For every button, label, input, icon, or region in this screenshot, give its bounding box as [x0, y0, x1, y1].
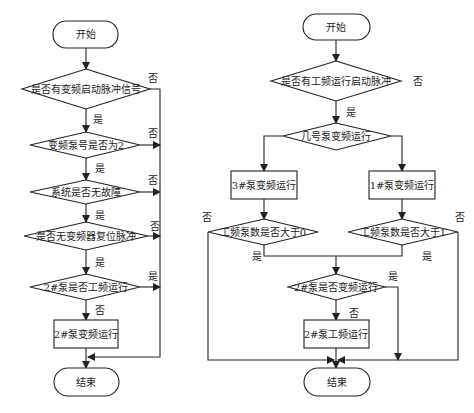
flowchart-canvas: 开始 是否有变频启动脉冲信号 否 是 变频泵号是否为2 否 是 系统是否无故障 … — [0, 0, 474, 413]
right-d3-yes-label: 是 — [388, 271, 398, 282]
left-d4-yes-label: 是 — [95, 257, 105, 268]
right-decision-1-text: 是否有工频运行启动脉冲 — [281, 75, 391, 87]
branch-right — [391, 136, 402, 171]
left-end-text: 结束 — [76, 376, 96, 388]
left-d1-yes-label: 是 — [93, 114, 103, 125]
left-d5-no-label: 否 — [95, 305, 105, 316]
right-d3-no-label: 否 — [349, 308, 359, 319]
right-d1-no-label: 否 — [413, 76, 423, 87]
right-decision-left-text: 工频泵数是否大于0 — [220, 226, 306, 238]
left-start-text: 开始 — [76, 28, 96, 40]
left-d4-no-label: 否 — [150, 221, 160, 232]
right-decision-right-text: 工频泵数是否大于1 — [360, 226, 446, 238]
yes-merge-line — [264, 245, 402, 256]
left-flowchart: 开始 是否有变频启动脉冲信号 否 是 变频泵号是否为2 否 是 系统是否无故障 … — [22, 21, 160, 396]
right-d-right-no-label: 否 — [455, 212, 465, 223]
right-end-text: 结束 — [327, 376, 347, 388]
left-decision-4-text: 是否无变频器复位脉冲 — [36, 230, 136, 242]
right-start-text: 开始 — [326, 21, 346, 33]
left-d3-yes-label: 是 — [95, 210, 105, 221]
right-decision-2-text: 几号泵变频运行 — [301, 130, 371, 142]
left-decision-3-text: 系统是否无故障 — [51, 186, 121, 198]
left-process-1-text: 2#泵变频运行 — [54, 328, 119, 340]
right-process-right-text: 1#泵变频运行 — [370, 179, 435, 191]
left-decision-2-text: 变频泵号是否为2 — [48, 139, 124, 151]
right-d-left-no-label: 否 — [202, 212, 212, 223]
right-flowchart: 开始 是否有工频运行启动脉冲 否 是 几号泵变频运行 3#泵变频运行 1#泵变频… — [202, 14, 465, 396]
left-d2-no-label: 否 — [148, 128, 158, 139]
left-decision-5-text: 2#泵是否工频运行 — [44, 281, 129, 293]
right-process-left-text: 3#泵变频运行 — [232, 179, 297, 191]
left-decision-1-text: 是否有变频启动脉冲信号 — [31, 83, 141, 95]
branch-left — [264, 136, 283, 171]
right-decision-3-text: 2#泵是否变频运行 — [294, 281, 379, 293]
left-d3-no-label: 否 — [148, 175, 158, 186]
left-d2-yes-label: 是 — [95, 163, 105, 174]
left-d1-no-label: 否 — [148, 73, 158, 84]
right-d-right-yes-label: 是 — [422, 251, 432, 262]
right-process-2-text: 2#泵工频运行 — [304, 328, 369, 340]
d3-yes-line — [385, 287, 398, 360]
right-d-left-yes-label: 是 — [252, 251, 262, 262]
right-d1-yes-label: 是 — [346, 107, 356, 118]
left-d5-yes-label: 是 — [148, 271, 158, 282]
